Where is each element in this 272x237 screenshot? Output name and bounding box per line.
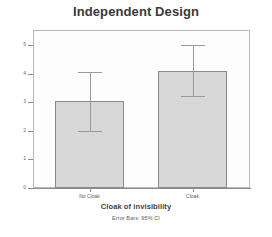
y-tick-label: 3 — [23, 98, 26, 104]
error-bar-line — [90, 72, 91, 131]
x-tick-label-no-cloak: No Cloak — [79, 193, 100, 199]
y-tick-label: 5 — [23, 41, 26, 47]
y-tick-label: 4 — [23, 70, 26, 76]
y-tick: 2 — [28, 131, 33, 132]
x-tick — [193, 188, 194, 192]
error-bar-cap-lower — [78, 131, 102, 132]
chart-title: Independent Design — [0, 4, 272, 19]
error-bar-cap-upper — [78, 72, 102, 73]
y-tick: 4 — [28, 74, 33, 75]
y-tick-label: 0 — [23, 184, 26, 190]
error-bar-cap-lower — [181, 96, 205, 97]
y-tick-label: 2 — [23, 127, 26, 133]
y-tick: 5 — [28, 45, 33, 46]
y-tick-label: 1 — [23, 155, 26, 161]
chart-container: Independent Design Mean Mischievous Acts… — [0, 0, 272, 237]
error-bar-note: Error Bars: 95% CI — [0, 215, 272, 221]
error-bar-cap-upper — [181, 45, 205, 46]
y-tick: 3 — [28, 102, 33, 103]
x-axis-title: Cloak of invisibility — [0, 202, 272, 211]
error-bar-line — [193, 45, 194, 96]
y-tick: 1 — [28, 159, 33, 160]
x-tick-label-cloak: Cloak — [186, 193, 199, 199]
plot-area — [34, 31, 249, 188]
x-axis-line — [33, 188, 251, 189]
x-tick — [90, 188, 91, 192]
